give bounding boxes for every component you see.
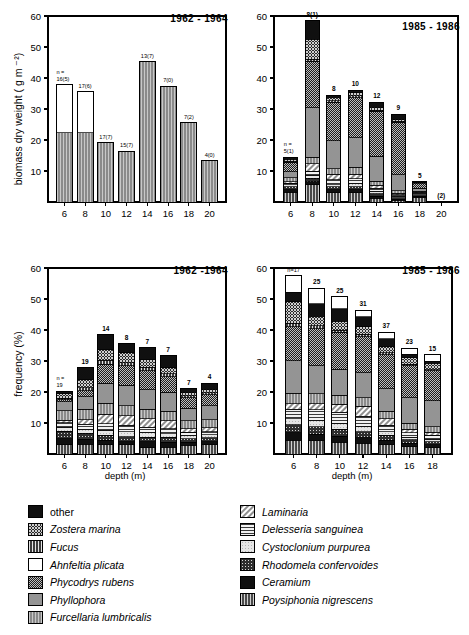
y-tick-label: 20 [30, 387, 41, 398]
bar-segment [413, 188, 427, 191]
bar-count-label: 25 [336, 287, 344, 294]
y-tick-label: 40 [256, 325, 267, 336]
bar-count-label: 7 [146, 338, 150, 345]
x-tick-label: 14 [371, 208, 382, 219]
plot-frame [48, 16, 226, 202]
y-tick-label: 50 [30, 42, 41, 53]
bar-segment [119, 432, 135, 437]
bar-segment [77, 133, 93, 202]
legend-item: Fucus [28, 538, 152, 556]
bar-segment [327, 193, 341, 202]
bar-segment [370, 181, 384, 185]
bar-count-label: 15(7) [120, 142, 133, 148]
bar-segment [370, 188, 384, 191]
bar-segment [401, 354, 417, 357]
bar-segment [305, 185, 319, 202]
bar-count-label: 31 [359, 300, 367, 307]
bar-segment [309, 329, 325, 366]
y-tick-label: 50 [256, 42, 267, 53]
bar-segment [327, 97, 341, 100]
bar-segment [160, 447, 176, 454]
bar-segment [119, 437, 135, 442]
bar-segment [378, 419, 394, 426]
bar-segment [378, 435, 394, 440]
y-tick-label: 30 [256, 104, 267, 115]
x-tick-label: 12 [121, 208, 132, 219]
bar-segment [139, 448, 155, 454]
bar-segment [401, 423, 417, 429]
bar-segment [139, 348, 155, 360]
bar-segment [309, 404, 325, 410]
bar-segment [424, 442, 440, 445]
bar-segment [139, 409, 155, 418]
legend-item: Rhodomela confervoides [240, 556, 378, 574]
y-tick-label: 60 [256, 263, 267, 274]
legend-label: Fucus [50, 541, 79, 553]
bar-segment [348, 184, 362, 187]
bar-segment [424, 401, 440, 427]
bar-count-label: 13(7) [141, 53, 154, 59]
y-tick-label: 60 [30, 11, 41, 22]
bar-segment [160, 374, 176, 377]
bar-segment [119, 445, 135, 454]
bar-segment [202, 406, 218, 420]
bar-count-label: 15 [429, 345, 437, 352]
bar-segment [332, 321, 348, 330]
bar-segment [370, 102, 384, 107]
bar-segment [56, 85, 72, 133]
bar-count-label: 19 [82, 358, 90, 365]
y-tick-label: 10 [256, 418, 267, 429]
bar-segment [305, 171, 319, 175]
bar-segment [202, 438, 218, 442]
bar-segment [119, 344, 135, 353]
bar-segment [286, 323, 302, 326]
x-tick-label: 10 [101, 208, 112, 219]
x-tick-label: 8 [82, 460, 87, 471]
bar-segment [119, 442, 135, 445]
bar-segment [119, 366, 135, 385]
bar-count-label: 14 [102, 325, 110, 332]
bar-segment [332, 442, 348, 454]
bar-segment [305, 108, 319, 158]
bar-segment [309, 421, 325, 427]
bar-segment [98, 435, 114, 440]
x-axis-label: depth (m) [105, 470, 146, 481]
bar-segment [401, 398, 417, 423]
bar-segment [160, 437, 176, 442]
x-tick-label: 6 [291, 460, 296, 471]
bar-segment [355, 438, 371, 444]
bar-segment [348, 93, 362, 96]
bar-segment [378, 389, 394, 411]
bar-segment [181, 392, 197, 396]
bar-n-prefix: n = [284, 141, 292, 147]
bar-segment [160, 411, 176, 420]
bar-segment [401, 433, 417, 437]
bar-segment [202, 420, 218, 428]
bar-segment [286, 433, 302, 440]
legend-label: Furcellaria lumbricalis [50, 611, 152, 623]
x-tick-label: 6 [62, 208, 67, 219]
bar-segment [119, 151, 135, 202]
bar-segment [160, 368, 176, 374]
bar-segment [378, 411, 394, 418]
bar-segment [327, 187, 341, 190]
bar-segment [139, 442, 155, 448]
bar-segment [424, 439, 440, 441]
bar-count-label: n=17 [287, 267, 300, 273]
bar-segment [327, 102, 341, 141]
bar-count-label: 17(7) [99, 134, 112, 140]
bar-segment [286, 440, 302, 454]
bar-segment [202, 445, 218, 454]
legend-swatch-icon [28, 558, 43, 571]
bar-segment [284, 190, 298, 192]
bar-segment [286, 393, 302, 404]
bar-segment [181, 432, 197, 435]
bar-segment [327, 180, 341, 185]
x-tick-label: 18 [184, 460, 195, 471]
bar-segment [202, 395, 218, 406]
bar-segment [284, 178, 298, 182]
bar-segment [56, 423, 72, 427]
legend-label: Laminaria [262, 506, 308, 518]
y-tick-label: 40 [256, 73, 267, 84]
bar-segment [286, 425, 302, 433]
